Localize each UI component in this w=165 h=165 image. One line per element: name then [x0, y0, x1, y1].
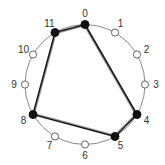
- node-8-selected: [29, 111, 37, 119]
- edge-5-8: [33, 115, 115, 137]
- edge-0-4: [85, 25, 137, 115]
- edge-11-0: [55, 25, 85, 33]
- node-label-2: 2: [144, 44, 150, 55]
- edge-shadow-4-5: [114, 114, 136, 136]
- node-3: [141, 81, 148, 88]
- clock-diagram: 01234567891011: [0, 0, 165, 165]
- node-label-7: 7: [47, 140, 53, 151]
- node-labels: 01234567891011: [11, 8, 159, 161]
- node-4-selected: [133, 111, 141, 119]
- node-label-10: 10: [18, 44, 30, 55]
- edge-shadow-8-11: [34, 33, 56, 115]
- base-circle: [25, 25, 145, 145]
- node-10: [29, 51, 36, 58]
- node-label-5: 5: [118, 140, 124, 151]
- edge-8-11: [33, 33, 55, 115]
- node-7: [51, 133, 58, 140]
- node-label-3: 3: [153, 79, 159, 90]
- edge-4-5: [115, 115, 137, 137]
- node-2: [133, 51, 140, 58]
- node-label-8: 8: [21, 115, 27, 126]
- edge-shadow-0-4: [84, 25, 136, 115]
- node-9: [21, 81, 28, 88]
- node-label-9: 9: [11, 79, 17, 90]
- node-label-1: 1: [118, 18, 124, 29]
- node-11-selected: [51, 29, 59, 37]
- node-6: [81, 141, 88, 148]
- edge-shadow-5-8: [33, 113, 115, 135]
- polygon-edges: [33, 25, 137, 137]
- node-1: [111, 29, 118, 36]
- node-5-selected: [111, 132, 119, 140]
- node-label-6: 6: [82, 150, 88, 161]
- node-0-selected: [81, 21, 89, 29]
- node-label-0: 0: [82, 8, 88, 19]
- node-label-11: 11: [44, 18, 55, 29]
- node-label-4: 4: [144, 115, 150, 126]
